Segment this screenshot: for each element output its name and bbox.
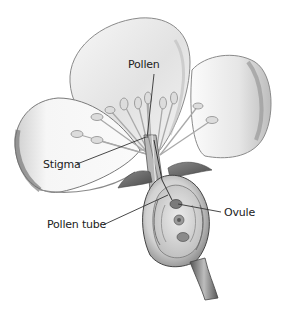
pollen-label: Pollen [128, 59, 160, 70]
stem [190, 258, 218, 300]
flower-diagram: Pollen Stigma Pollen tube Ovule [0, 0, 286, 311]
ovule-label: Ovule [224, 207, 255, 218]
pollen-tube-label: Pollen tube [47, 219, 106, 230]
stigma-label: Stigma [43, 159, 81, 170]
flower-illustration [0, 0, 286, 311]
